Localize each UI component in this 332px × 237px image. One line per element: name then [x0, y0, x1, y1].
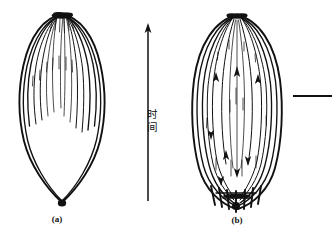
panel-a-group: (a) — [20, 12, 105, 224]
panel-a-flow-lines-right — [61, 16, 97, 132]
panel-b-flow-lines-inner — [222, 19, 253, 172]
time-axis-group: 时 间 — [145, 23, 158, 201]
panel-b-arrowheads-down — [208, 130, 251, 186]
panel-b-caption: (b) — [232, 215, 243, 225]
panel-a-bottom-node — [58, 199, 66, 206]
panel-a-flow-lines-left — [28, 16, 59, 126]
figure-container: (a) 时 间 — [0, 0, 332, 237]
time-axis-label-char-2: 间 — [147, 121, 157, 133]
panel-a-caption: (a) — [52, 214, 63, 224]
time-axis-label-char-1: 时 — [147, 108, 158, 120]
panel-a-outline — [20, 15, 105, 203]
scientific-figure-diagram: (a) 时 间 — [0, 0, 332, 237]
panel-b-group: (b) — [192, 13, 282, 225]
